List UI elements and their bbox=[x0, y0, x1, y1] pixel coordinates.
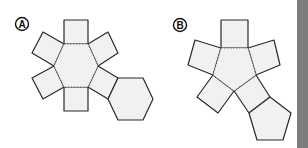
net-b-square-top bbox=[221, 20, 248, 48]
label-a: A bbox=[16, 18, 29, 31]
net-a: A bbox=[16, 18, 154, 121]
label-a-text: A bbox=[18, 19, 25, 30]
net-a-square-top bbox=[64, 20, 88, 44]
net-a-hexagon-outer bbox=[108, 78, 153, 120]
net-b: B bbox=[174, 19, 292, 141]
net-a-square-bottom bbox=[64, 87, 88, 111]
label-b-text: B bbox=[176, 20, 183, 31]
label-b: B bbox=[174, 19, 187, 32]
page-edge-bar bbox=[297, 0, 308, 148]
prism-nets-diagram: A B bbox=[0, 0, 308, 148]
